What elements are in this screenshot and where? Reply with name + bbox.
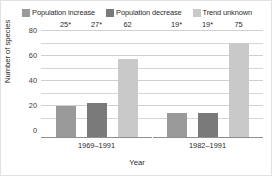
legend-label-population-increase: Population increase — [32, 8, 95, 17]
bar-wrap-unknown-1: 62 — [118, 30, 138, 137]
y-tick-label-40: 40 — [29, 76, 37, 85]
bar-increase-2 — [167, 113, 187, 137]
bar-decrease-1 — [87, 103, 107, 137]
bar-value-decrease-2: 19* — [202, 20, 213, 29]
bars-layer: 25* 27* 62 19* 19* — [41, 30, 263, 137]
legend-label-trend-unknown: Trend unknown — [203, 8, 252, 17]
bar-group-1969-1991: 25* 27* 62 — [41, 30, 152, 137]
bar-chart-figure: Population increase Population decrease … — [0, 0, 272, 176]
bar-wrap-decrease-1: 27* — [87, 30, 107, 137]
bar-increase-1 — [56, 106, 76, 137]
y-tick-label-20: 20 — [29, 101, 37, 110]
bar-group-1982-1991: 19* 19* 75 — [152, 30, 263, 137]
bar-wrap-increase-2: 19* — [167, 30, 187, 137]
bar-wrap-unknown-2: 75 — [229, 30, 249, 137]
bar-value-unknown-1: 62 — [123, 20, 131, 29]
legend-item-trend-unknown: Trend unknown — [193, 8, 252, 17]
legend-swatch-population-increase — [22, 9, 30, 17]
y-tick-label-80: 80 — [29, 26, 37, 35]
x-tick-label-1969-1991: 1969–1991 — [41, 141, 152, 150]
x-tick-label-1982-1991: 1982–1991 — [152, 141, 263, 150]
legend-label-population-decrease: Population decrease — [116, 8, 182, 17]
legend-item-population-increase: Population increase — [22, 8, 95, 17]
legend-item-population-decrease: Population decrease — [106, 8, 182, 17]
bar-decrease-2 — [198, 113, 218, 137]
y-tick-label-60: 60 — [29, 51, 37, 60]
bar-value-increase-2: 19* — [171, 20, 182, 29]
y-axis-title: Number of species — [3, 20, 12, 83]
bar-value-decrease-1: 27* — [91, 20, 102, 29]
x-axis-title: Year — [1, 158, 272, 167]
legend-swatch-population-decrease — [106, 9, 114, 17]
bar-value-unknown-2: 75 — [234, 20, 242, 29]
bar-unknown-2 — [229, 43, 249, 137]
bar-wrap-decrease-2: 19* — [198, 30, 218, 137]
bar-value-increase-1: 25* — [60, 20, 71, 29]
chart-legend: Population increase Population decrease … — [1, 8, 272, 17]
x-axis-tick-labels: 1969–1991 1982–1991 — [41, 141, 263, 150]
y-tick-label-0: 0 — [33, 126, 37, 135]
legend-swatch-trend-unknown — [193, 9, 201, 17]
bar-unknown-1 — [118, 59, 138, 137]
bar-wrap-increase-1: 25* — [56, 30, 76, 137]
plot-area: 80 60 40 20 0 25* 27* 62 — [41, 30, 263, 137]
